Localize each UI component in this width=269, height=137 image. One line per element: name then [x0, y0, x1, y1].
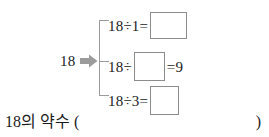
right-block-arrow-icon	[80, 54, 98, 68]
divisors-prompt-label: 18의 약수 (	[5, 112, 79, 132]
bracket-spine	[99, 20, 100, 96]
source-number: 18	[60, 52, 75, 70]
answer-box-2[interactable]	[134, 52, 165, 81]
equation-2-expression: 18÷	[108, 58, 132, 76]
equation-1-expression: 18÷1=	[108, 17, 148, 35]
divisors-prompt: 18의 약수 ( )	[5, 110, 265, 134]
equation-2-result: =9	[167, 58, 183, 76]
divisors-worksheet: 18 18÷1= 18÷ =9 18÷3= 18의 약수 ( )	[0, 0, 269, 137]
divisors-prompt-close-paren: )	[256, 112, 261, 132]
equation-3-expression: 18÷3=	[108, 92, 148, 110]
answer-box-1[interactable]	[150, 12, 187, 39]
equation-row-1: 18÷1=	[108, 12, 187, 39]
equation-row-2: 18÷ =9	[108, 52, 183, 81]
